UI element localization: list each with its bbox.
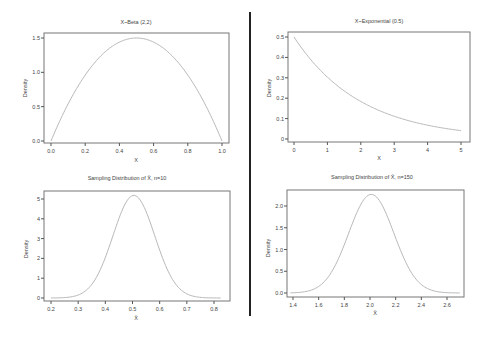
x-tick-label: 0.5 (129, 306, 137, 312)
x-tick-label: 0.0 (47, 148, 55, 154)
x-tick-label: 0.8 (210, 306, 218, 312)
x-tick-label: 0.6 (156, 306, 164, 312)
density-curve (51, 195, 221, 298)
chart-canvas: X~Beta (2,2) 0.00.20.40.60.81.0 0.00.51.… (0, 0, 492, 339)
x-axis-label: X (134, 157, 138, 163)
x-axis-label: X̄ (134, 315, 138, 321)
x-axis-ticks: 1.41.61.82.02.22.42.6 (289, 297, 451, 308)
y-tick-label: 3 (37, 236, 40, 242)
chart-sampling-n150: Sampling Distribution of X̄, n=150 1.41.… (265, 174, 464, 316)
density-curve (294, 37, 461, 131)
chart-title: Sampling Distribution of X̄, n=150 (331, 174, 413, 180)
x-tick-label: 1.6 (315, 302, 323, 308)
x-tick-label: 4 (426, 147, 429, 153)
y-tick-label: 0.2 (276, 95, 284, 101)
x-tick-label: 0.4 (102, 306, 110, 312)
y-axis-label: Density (23, 240, 29, 259)
y-axis-ticks: 012345 (37, 196, 44, 301)
y-tick-label: 0.5 (32, 104, 40, 110)
plot-frame (44, 33, 229, 143)
y-tick-label: 1.5 (275, 225, 283, 231)
y-tick-label: 0 (37, 295, 40, 301)
x-tick-label: 0 (292, 147, 295, 153)
y-axis-ticks: 0.00.51.01.5 (32, 35, 44, 144)
x-axis-ticks: 012345 (292, 142, 462, 153)
x-tick-label: 0.8 (184, 148, 192, 154)
x-tick-label: 1.0 (218, 148, 226, 154)
density-curve (290, 194, 459, 293)
y-tick-label: 2 (37, 255, 40, 261)
x-tick-label: 2.4 (418, 302, 426, 308)
chart-sampling-n10: Sampling Distribution of X̄, n=10 0.20.3… (23, 175, 230, 321)
y-tick-label: 0.3 (276, 75, 284, 81)
y-tick-label: 0.0 (275, 290, 283, 296)
chart-title: X~Beta (2,2) (120, 19, 151, 25)
x-tick-label: 5 (459, 147, 462, 153)
x-tick-label: 2.6 (443, 302, 451, 308)
y-tick-label: 2.0 (275, 203, 283, 209)
chart-exponential: X~Exponential (0.5) 012345 00.10.20.30.4… (266, 18, 470, 161)
x-tick-label: 0.2 (47, 306, 55, 312)
x-tick-label: 1 (326, 147, 329, 153)
x-tick-label: 0.7 (183, 306, 191, 312)
x-axis-label: X (377, 155, 381, 161)
x-axis-label: X̄ (373, 310, 377, 316)
y-axis-ticks: 00.10.20.30.40.5 (276, 34, 288, 142)
chart-beta: X~Beta (2,2) 0.00.20.40.60.81.0 0.00.51.… (22, 19, 229, 163)
y-axis-label: Density (266, 79, 272, 98)
y-tick-label: 5 (37, 196, 40, 202)
plot-frame (288, 32, 470, 142)
y-tick-label: 1.0 (275, 247, 283, 253)
y-tick-label: 0.4 (276, 54, 284, 60)
x-axis-ticks: 0.20.30.40.50.60.70.8 (47, 301, 218, 312)
y-tick-label: 1.0 (32, 69, 40, 75)
x-tick-label: 2.0 (366, 302, 374, 308)
x-tick-label: 0.4 (116, 148, 124, 154)
plot-frame (287, 190, 464, 297)
y-tick-label: 0.5 (275, 268, 283, 274)
plot-frame (44, 191, 230, 301)
x-tick-label: 2.2 (392, 302, 400, 308)
y-tick-label: 0.1 (276, 116, 284, 122)
x-tick-label: 0.3 (74, 306, 82, 312)
y-tick-label: 1.5 (32, 35, 40, 41)
y-tick-label: 1 (37, 275, 40, 281)
x-tick-label: 3 (393, 147, 396, 153)
density-curve (51, 38, 222, 141)
x-tick-label: 0.6 (150, 148, 158, 154)
x-tick-label: 1.4 (289, 302, 297, 308)
x-tick-label: 1.8 (341, 302, 349, 308)
y-axis-ticks: 0.00.51.01.52.0 (275, 203, 287, 296)
y-axis-label: Density (22, 79, 28, 98)
chart-title: X~Exponential (0.5) (355, 18, 404, 24)
y-tick-label: 4 (37, 216, 40, 222)
y-axis-label: Density (265, 239, 271, 258)
y-tick-label: 0.5 (276, 34, 284, 40)
y-tick-label: 0 (281, 136, 284, 142)
x-axis-ticks: 0.00.20.40.60.81.0 (47, 143, 226, 154)
chart-title: Sampling Distribution of X̄, n=10 (88, 175, 167, 181)
x-tick-label: 0.2 (81, 148, 89, 154)
x-tick-label: 2 (359, 147, 362, 153)
y-tick-label: 0.0 (32, 138, 40, 144)
